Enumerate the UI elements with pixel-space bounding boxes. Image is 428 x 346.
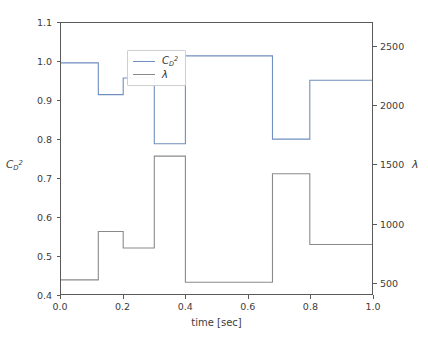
x-tick-label: 0.2 (115, 301, 130, 312)
y-tick-label-right: 2000 (380, 100, 404, 111)
x-tick-mark (373, 295, 374, 299)
y-tick-label-left: 1.1 (0, 17, 52, 28)
y-tick-mark-left (57, 61, 61, 62)
y-tick-label-right: 2500 (380, 40, 404, 51)
y-tick-label-left: 0.9 (0, 95, 52, 106)
series-line-lambda (61, 156, 372, 282)
plot-area: CD2 λ (60, 22, 373, 295)
x-tick-mark (60, 295, 61, 299)
x-tick-label: 0.4 (178, 301, 193, 312)
y-tick-label-left: 0.8 (0, 134, 52, 145)
x-tick-mark (310, 295, 311, 299)
x-tick-label: 0.6 (240, 301, 255, 312)
y-tick-label-left: 0.5 (0, 251, 52, 262)
legend-label-lambda: λ (162, 68, 168, 81)
y-tick-mark-right (373, 46, 377, 47)
y-tick-mark-left (57, 22, 61, 23)
y-axis-label-right: λ (412, 158, 419, 171)
y-tick-mark-left (57, 256, 61, 257)
legend-line-icon-lambda (133, 74, 155, 75)
y-tick-mark-left (57, 139, 61, 140)
y-tick-label-left: 0.7 (0, 173, 52, 184)
y-tick-label-left: 1.0 (0, 56, 52, 67)
series-line-cd2 (61, 56, 372, 144)
legend-line-icon-cd2 (133, 61, 155, 62)
y-tick-mark-left (57, 178, 61, 179)
y-tick-label-right: 1500 (380, 159, 404, 170)
x-tick-label: 0.8 (303, 301, 318, 312)
x-tick-mark (185, 295, 186, 299)
x-tick-mark (248, 295, 249, 299)
y-tick-label-right: 500 (380, 278, 398, 289)
legend-entry-cd2: CD2 (133, 55, 178, 68)
y-tick-mark-right (373, 164, 377, 165)
y-tick-label-left: 0.6 (0, 212, 52, 223)
y-axis-label-left-sup: 2 (19, 159, 23, 167)
x-tick-mark (123, 295, 124, 299)
chart-figure: CD2 λ 0.40.50.60.70.80.91.01.15001000150… (0, 0, 428, 346)
chart-curves (61, 23, 372, 294)
x-tick-label: 0.0 (52, 301, 67, 312)
legend-label-cd2-sup: 2 (174, 55, 178, 63)
y-tick-mark-right (373, 224, 377, 225)
y-tick-label-right: 1000 (380, 218, 404, 229)
y-tick-mark-left (57, 217, 61, 218)
y-tick-label-left: 0.4 (0, 290, 52, 301)
y-axis-label-left: CD2 (6, 158, 23, 172)
x-tick-label: 1.0 (365, 301, 380, 312)
chart-legend: CD2 λ (127, 50, 186, 86)
y-tick-mark-right (373, 105, 377, 106)
y-tick-mark-left (57, 100, 61, 101)
x-axis-label: time [sec] (60, 317, 373, 328)
y-tick-mark-right (373, 283, 377, 284)
